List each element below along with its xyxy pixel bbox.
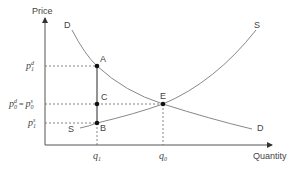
y-tick-p1d: p1d [26,60,34,72]
x-tick-q1: q1 [93,151,101,162]
supply-label-bottom: S [68,125,74,134]
x-tick-q0: q0 [159,151,167,162]
point-b [95,121,100,126]
supply-curve [80,30,256,128]
x-axis-label: Quantity [253,152,287,161]
point-c-label: C [101,93,108,102]
demand-label-bottom: D [257,124,264,133]
point-c [95,102,100,107]
demand-label-top: D [64,21,71,30]
point-b-label: B [100,124,106,133]
supply-demand-diagram: Price Quantity D S D S A C B E p1d p0d =… [0,0,297,169]
supply-label-top: S [254,21,260,30]
point-e [161,102,166,107]
point-e-label: E [160,92,166,101]
y-tick-p1s: p1s [28,117,35,129]
diagram-canvas [0,0,297,169]
y-axis-label: Price [32,7,53,16]
point-a [95,64,100,69]
point-a-label: A [100,55,106,64]
demand-curve [72,30,252,129]
y-tick-p0: p0d = p0s [9,98,33,110]
